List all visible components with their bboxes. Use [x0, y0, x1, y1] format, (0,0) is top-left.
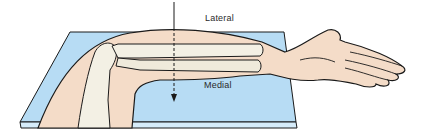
forearm-positioning-diagram: Lateral Medial — [0, 0, 422, 136]
lateral-label: Lateral — [205, 13, 234, 23]
medial-label: Medial — [204, 80, 232, 90]
